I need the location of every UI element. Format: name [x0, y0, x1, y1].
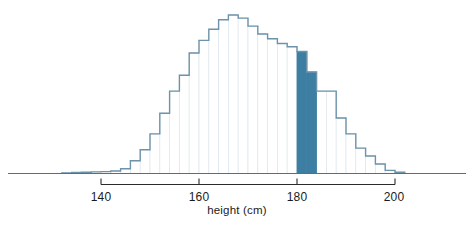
histogram-bar [140, 150, 150, 174]
histogram-bar [346, 134, 356, 174]
histogram-bar [375, 164, 385, 174]
x-axis [101, 179, 395, 185]
histogram-bar [179, 75, 189, 173]
histogram-bar [160, 113, 170, 173]
histogram-bar [219, 20, 229, 174]
histogram-bar [268, 39, 278, 174]
histogram-bar [199, 40, 209, 173]
histogram-bar [366, 156, 376, 173]
histogram-bar-highlighted [307, 72, 317, 173]
histogram-figure: 140 160 180 200 height (cm) [0, 0, 474, 234]
histogram-bar [238, 18, 248, 173]
x-tick-label-200: 200 [384, 190, 405, 204]
x-axis-label: height (cm) [207, 204, 267, 216]
histogram-bar [317, 91, 327, 173]
histogram-bar [277, 44, 287, 174]
histogram-bar [130, 161, 140, 174]
histogram-bars [62, 15, 405, 174]
histogram-bar-highlighted [297, 51, 307, 173]
x-axis-ticks [101, 179, 395, 185]
histogram-bar [258, 34, 268, 173]
histogram-bar [170, 91, 180, 173]
histogram-bar [248, 26, 258, 173]
x-tick-label-160: 160 [189, 190, 210, 204]
histogram-bar [287, 47, 297, 174]
histogram-bar [189, 53, 199, 173]
histogram-bar [336, 118, 346, 173]
x-tick-label-140: 140 [91, 190, 112, 204]
histogram-bar [209, 29, 219, 173]
x-tick-label-180: 180 [287, 190, 308, 204]
histogram-bar [356, 148, 366, 173]
histogram-bar [150, 134, 160, 174]
histogram-bar [121, 169, 131, 174]
histogram-bar [326, 91, 336, 173]
histogram-bar [228, 15, 238, 174]
